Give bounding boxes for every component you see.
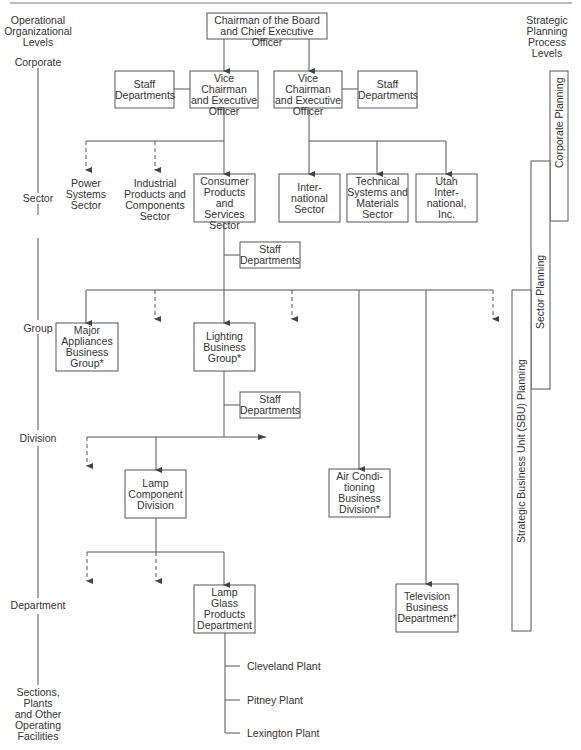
level-corporate: Corporate bbox=[2, 57, 74, 68]
node-lamp-glass-products-department[interactable]: Lamp Glass Products Department bbox=[194, 587, 255, 631]
level-department: Department bbox=[8, 600, 68, 611]
sbu-planning-label: Strategic Business Unit (SBU) Planning bbox=[515, 359, 527, 543]
node-power-systems-sector[interactable]: Power Systems Sector bbox=[56, 178, 116, 211]
node-staff-departments-sector[interactable]: Staff Departments bbox=[240, 244, 300, 266]
level-division: Division bbox=[18, 433, 58, 444]
node-consumer-products-sector[interactable]: Consumer Products and Services Sector bbox=[194, 176, 255, 231]
node-air-conditioning-division[interactable]: Air Condi- tioning Business Division* bbox=[329, 471, 390, 515]
node-technical-systems-sector[interactable]: Technical Systems and Materials Sector bbox=[347, 176, 408, 220]
sector-planning-label: Sector Planning bbox=[534, 255, 546, 329]
node-international-sector[interactable]: Inter- national Sector bbox=[279, 182, 340, 215]
corporate-planning-label: Corporate Planning bbox=[553, 78, 565, 168]
node-major-appliances-group[interactable]: Major Appliances Business Group* bbox=[56, 325, 118, 369]
node-lighting-business-group[interactable]: Lighting Business Group* bbox=[194, 331, 255, 364]
node-staff-departments-right[interactable]: Staff Departments bbox=[358, 79, 417, 101]
node-vice-chairman-left[interactable]: Vice Chairman and Executive Officer bbox=[190, 73, 258, 117]
level-sector: Sector bbox=[18, 193, 58, 204]
level-group: Group bbox=[22, 323, 54, 334]
strategic-levels-header: Strategic Planning Process Levels bbox=[512, 15, 581, 59]
node-industrial-products-sector[interactable]: Industrial Products and Components Secto… bbox=[122, 178, 188, 222]
plant-pitney[interactable]: Pitney Plant bbox=[247, 695, 347, 706]
operational-levels-header: Operational Organizational Levels bbox=[2, 15, 74, 48]
node-staff-departments-left[interactable]: Staff Departments bbox=[115, 79, 174, 101]
node-vice-chairman-right[interactable]: Vice Chairman and Executive Officer bbox=[274, 73, 342, 117]
node-chairman[interactable]: Chairman of the Board and Chief Executiv… bbox=[207, 15, 327, 48]
plant-cleveland[interactable]: Cleveland Plant bbox=[247, 661, 347, 672]
node-utah-international[interactable]: Utah Inter- national, Inc. bbox=[416, 176, 477, 220]
node-staff-departments-group[interactable]: Staff Departments bbox=[240, 394, 300, 416]
node-television-business-department[interactable]: Television Business Department* bbox=[396, 591, 458, 624]
level-sections-plants: Sections, Plants and Other Operating Fac… bbox=[4, 687, 72, 742]
plant-lexington[interactable]: Lexington Plant bbox=[247, 728, 347, 739]
node-lamp-component-division[interactable]: Lamp Component Division bbox=[125, 478, 186, 511]
